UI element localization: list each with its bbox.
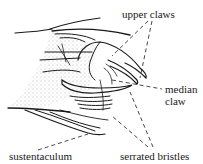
sustentaculum-shape (8, 108, 108, 135)
label-upper-claws: upper claws (122, 8, 175, 20)
label-median-claw-line1: median (165, 83, 197, 95)
label-sustentaculum: sustentaculum (9, 150, 72, 162)
label-serrated-bristles: serrated bristles (120, 150, 189, 162)
leader-serrated-bristles-1 (112, 116, 148, 147)
leader-upper-claws-2 (140, 21, 152, 78)
leader-upper-claws-1 (112, 21, 148, 56)
anatomical-drawing (0, 0, 203, 164)
tarsus-body (8, 30, 95, 110)
label-median-claw-line2: claw (165, 95, 186, 107)
leader-serrated-bristles-2 (130, 92, 153, 147)
leader-sustentaculum (38, 134, 88, 150)
